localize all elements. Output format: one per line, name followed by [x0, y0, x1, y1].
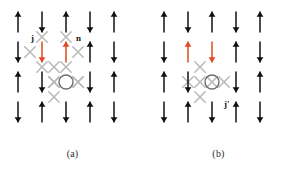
spin-arrow — [87, 102, 94, 123]
bond-cross-icon — [195, 62, 205, 72]
spin-arrow — [233, 12, 240, 33]
spin-arrow-head — [185, 102, 192, 107]
spin-arrow — [185, 12, 192, 33]
panel-b: j' (b) — [146, 0, 291, 182]
bond-cross-icon — [219, 77, 229, 87]
spin-arrow — [111, 12, 118, 33]
figure-root: j n (a) j' (b) — [0, 0, 291, 182]
spin-arrow-head — [233, 42, 240, 47]
spin-arrows-b — [161, 12, 264, 123]
bond-cross-icon — [61, 62, 71, 72]
spin-arrow-head — [15, 72, 22, 77]
spin-arrow — [209, 102, 216, 123]
bond-cross-icon — [73, 47, 83, 57]
spin-arrow-head — [39, 57, 46, 62]
spin-arrow-head — [209, 12, 216, 17]
spin-arrow-head — [233, 87, 240, 92]
spin-arrow-head — [209, 117, 216, 122]
spin-arrow — [39, 102, 46, 123]
spin-arrow — [111, 72, 118, 93]
bond-cross-icon — [37, 62, 47, 72]
spin-arrow — [15, 12, 22, 33]
spin-arrow-head — [15, 12, 22, 17]
spin-arrow-head — [111, 72, 118, 77]
spin-arrow-head — [39, 87, 46, 92]
current-label-j: j — [31, 34, 34, 43]
vortex-circle — [59, 75, 73, 89]
bond-cross-icon — [49, 92, 59, 102]
spin-arrow-head — [161, 72, 168, 77]
spin-arrow-head — [185, 42, 192, 47]
bond-cross-icon — [37, 32, 47, 42]
spin-arrow — [257, 102, 264, 123]
spin-arrow — [209, 42, 216, 63]
spin-arrow-head — [63, 42, 70, 47]
spin-arrow-head — [257, 12, 264, 17]
spin-arrow — [161, 12, 168, 33]
spin-arrow-head — [39, 102, 46, 107]
bond-cross-icon — [25, 47, 35, 57]
spin-arrow — [63, 12, 70, 33]
spin-arrow — [63, 42, 70, 63]
spin-arrow — [233, 102, 240, 123]
spin-arrow — [15, 72, 22, 93]
spin-arrow — [233, 72, 240, 93]
bond-cross-icon — [207, 77, 217, 87]
bond-cross-icon — [195, 92, 205, 102]
spin-arrow-head — [87, 102, 94, 107]
spin-arrow-head — [209, 57, 216, 62]
spin-arrow — [185, 102, 192, 123]
spin-arrow — [161, 102, 168, 123]
spin-arrow — [185, 72, 192, 93]
spin-arrow — [257, 72, 264, 93]
lattice-a-svg — [0, 0, 145, 145]
lattice-a — [0, 0, 145, 145]
spin-arrow — [39, 12, 46, 33]
spin-arrow — [87, 12, 94, 33]
spin-arrow-head — [111, 117, 118, 122]
spin-arrow-head — [15, 117, 22, 122]
spin-arrow-head — [63, 117, 70, 122]
vortex-core-a — [49, 75, 83, 89]
normal-label-n: n — [76, 34, 81, 43]
current-label-j-prime: j' — [224, 100, 230, 109]
bond-cross-icon — [73, 77, 83, 87]
spin-arrow — [185, 42, 192, 63]
spin-arrow-head — [87, 42, 94, 47]
spin-arrow — [209, 12, 216, 33]
spin-arrow-head — [15, 57, 22, 62]
spin-arrow — [87, 72, 94, 93]
spin-arrow-head — [161, 117, 168, 122]
spin-arrow-head — [257, 117, 264, 122]
bond-cross-icon — [49, 62, 59, 72]
spin-arrow-head — [185, 27, 192, 32]
bond-cross-icon — [49, 77, 59, 87]
lattice-b — [146, 0, 291, 145]
spin-arrow — [39, 42, 46, 63]
spin-arrow-head — [111, 57, 118, 62]
spin-arrow — [63, 102, 70, 123]
panel-a-caption: (a) — [0, 148, 145, 159]
bond-cross-icon — [195, 77, 205, 87]
spin-arrow-head — [233, 102, 240, 107]
spin-arrow — [111, 42, 118, 63]
spin-arrow — [87, 42, 94, 63]
panel-b-caption: (b) — [146, 148, 291, 159]
spin-arrow-head — [111, 12, 118, 17]
bond-cross-icon — [61, 32, 71, 42]
spin-arrow-head — [161, 57, 168, 62]
spin-arrow-head — [257, 72, 264, 77]
spin-arrow-head — [257, 57, 264, 62]
spin-arrow-head — [161, 12, 168, 17]
spin-arrow — [111, 102, 118, 123]
spin-arrow — [257, 12, 264, 33]
spin-arrow-head — [87, 87, 94, 92]
spin-arrow — [15, 102, 22, 123]
spin-arrow — [161, 72, 168, 93]
panel-a: j n (a) — [0, 0, 145, 182]
lattice-b-svg — [146, 0, 291, 145]
spin-arrow — [39, 72, 46, 93]
spin-arrow-head — [233, 27, 240, 32]
spin-arrow-head — [63, 12, 70, 17]
spin-arrow — [161, 42, 168, 63]
